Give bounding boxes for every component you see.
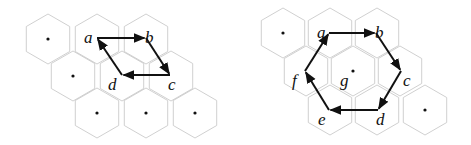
lattice-diagram: abcd abcdefg (0, 0, 471, 145)
cell-center-dot (144, 111, 147, 114)
vertex-label-a: a (317, 23, 326, 42)
right-panel-hexagon-cycle: abcdefg (261, 8, 446, 135)
cell-center-dot (423, 108, 426, 111)
cell-center-dot (71, 74, 74, 77)
vertex-label-e: e (318, 110, 326, 129)
cell-center-dot (281, 31, 284, 34)
cell-center-dot (46, 37, 49, 40)
directed-edge-e-f (306, 72, 329, 110)
vertex-label-b: b (145, 28, 154, 47)
directed-edge-c-d (379, 71, 401, 109)
cell-center-dot (95, 111, 98, 114)
vertex-label-c: c (168, 75, 176, 94)
cell-center-dot (193, 111, 196, 114)
vertex-label-d: d (108, 75, 117, 94)
vertex-label-f: f (292, 71, 299, 90)
vertex-label-a: a (84, 28, 93, 47)
vertex-label-d: d (376, 110, 385, 129)
center-label-g: g (340, 71, 349, 90)
hexagonal-lattice-figure: abcd abcdefg (0, 0, 471, 145)
vertex-label-c: c (403, 71, 411, 90)
left-panel-parallelogram-cycle: abcd (26, 14, 216, 138)
cell-center-dot (351, 69, 354, 72)
vertex-label-b: b (375, 23, 384, 42)
